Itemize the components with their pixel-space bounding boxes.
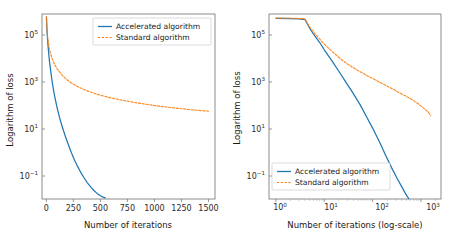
right-xtick-0: 100 <box>273 202 287 212</box>
right-x-axis-label: Number of iterations (log-scale) <box>287 220 422 230</box>
left-ytick-3: 10−1 <box>20 170 39 180</box>
figure-canvas: Logarithm of loss 105 103 101 10−1 <box>0 0 453 244</box>
left-legend: Accelerated algorithm Standard algorithm <box>93 18 211 45</box>
left-xtick-0: 0 <box>44 204 49 213</box>
right-ytick-3: 10−1 <box>247 170 266 180</box>
left-ytick-0: 105 <box>24 29 38 39</box>
right-legend: Accelerated algorithm Standard algorithm <box>272 163 390 190</box>
right-ytick-1: 103 <box>251 76 265 86</box>
left-ytick-1: 103 <box>24 76 38 86</box>
right-ytick-2: 101 <box>251 123 265 133</box>
left-xtick-2: 500 <box>93 204 108 213</box>
series-line-standard-algorithm <box>276 18 431 116</box>
right-y-tickmarks <box>269 35 272 176</box>
left-x-ticklabels: 0250500750100012501500 <box>44 204 219 213</box>
left-ytick-2: 101 <box>24 123 38 133</box>
right-x-ticklabels: 100 101 102 103 <box>273 202 440 212</box>
left-y-axis-label: Logarithm of loss <box>5 73 15 147</box>
right-ytick-0: 105 <box>251 29 265 39</box>
left-xtick-4: 1000 <box>144 204 164 213</box>
right-y-axis-label: Logarithm of loss <box>232 71 242 145</box>
chart-panel-right: Logarithm of loss 105 103 101 10−1 <box>227 0 453 244</box>
right-plot-svg: Logarithm of loss 105 103 101 10−1 <box>227 0 453 244</box>
chart-panel-left: Logarithm of loss 105 103 101 10−1 <box>0 0 227 244</box>
right-legend-label-accelerated: Accelerated algorithm <box>295 167 379 176</box>
left-y-ticklabels: 105 103 101 10−1 <box>20 29 39 180</box>
left-xtick-6: 1500 <box>198 204 218 213</box>
right-legend-label-standard: Standard algorithm <box>295 178 369 187</box>
left-xtick-3: 750 <box>120 204 135 213</box>
left-x-axis-label: Number of iterations <box>84 220 173 230</box>
left-legend-label-standard: Standard algorithm <box>116 33 190 42</box>
left-xtick-5: 1250 <box>171 204 191 213</box>
left-plot-svg: Logarithm of loss 105 103 101 10−1 <box>0 0 227 244</box>
right-xtick-3: 103 <box>426 202 440 212</box>
right-y-ticklabels: 105 103 101 10−1 <box>247 29 266 180</box>
right-xtick-2: 102 <box>375 202 389 212</box>
right-xtick-1: 101 <box>324 202 338 212</box>
left-legend-label-accelerated: Accelerated algorithm <box>116 22 200 31</box>
left-xtick-1: 250 <box>66 204 81 213</box>
